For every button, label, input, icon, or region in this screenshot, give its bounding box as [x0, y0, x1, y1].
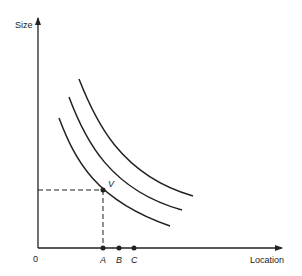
point-a-label: A [99, 255, 106, 265]
origin-label: 0 [33, 254, 38, 264]
point-v-label: V [108, 179, 115, 189]
point-b [117, 246, 122, 251]
point-c [132, 246, 137, 251]
curve-middle [69, 97, 182, 210]
x-axis-label: Location [250, 255, 284, 265]
y-axis-label: Size [15, 20, 33, 30]
point-v [101, 188, 106, 193]
point-a [101, 246, 106, 251]
diagram-canvas: V A B C Size Location 0 [0, 0, 302, 276]
point-b-label: B [116, 255, 122, 265]
point-c-label: C [131, 255, 138, 265]
curve-outer [79, 79, 193, 196]
